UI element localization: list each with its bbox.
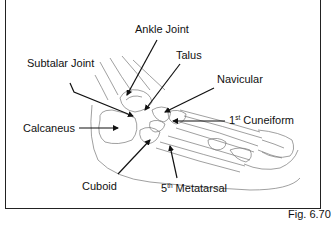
- label-calcaneus: Calcaneus: [23, 122, 75, 134]
- cuboid-arrow: [118, 140, 150, 174]
- label-cuboid: Cuboid: [82, 180, 117, 192]
- label-ankle-joint: Ankle Joint: [135, 23, 189, 35]
- figure-caption: Fig. 6.70: [288, 208, 331, 220]
- label-subtalar-joint: Subtalar Joint: [27, 57, 94, 69]
- label-navicular: Navicular: [217, 73, 263, 85]
- label-first-cuneiform: 1st Cuneiform: [229, 114, 294, 126]
- first-cuneiform-text: Cuneiform: [240, 114, 294, 126]
- talus-arrow: [145, 64, 180, 110]
- fifth-metatarsal-arrow: [170, 146, 177, 178]
- label-fifth-metatarsal: 5th Metatarsal: [161, 182, 227, 194]
- label-talus: Talus: [176, 49, 202, 61]
- ankle-joint-arrow: [127, 40, 157, 95]
- fifth-metatarsal-text: Metatarsal: [173, 182, 227, 194]
- navicular-arrow: [165, 88, 214, 112]
